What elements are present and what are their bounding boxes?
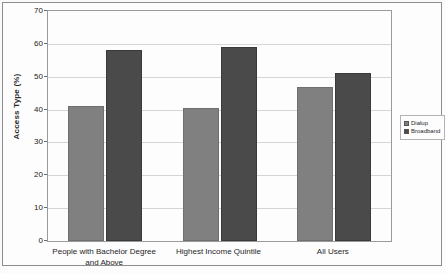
legend-label-broadband: Broadband bbox=[411, 128, 440, 135]
y-axis-tick-mark bbox=[44, 174, 47, 175]
category-label: People with Bachelor Degreeand Above bbox=[42, 246, 166, 268]
bar-dialup-3 bbox=[297, 87, 333, 241]
y-axis-tick-label: 20 bbox=[21, 170, 43, 179]
bottom-caption-sliver bbox=[4, 268, 440, 274]
bar-broadband-1 bbox=[106, 50, 142, 241]
y-axis-tick-mark bbox=[44, 141, 47, 142]
y-axis-tick-label: 40 bbox=[21, 105, 43, 114]
bar-broadband-3 bbox=[335, 73, 371, 241]
y-axis-tick-label: 10 bbox=[21, 203, 43, 212]
category-label: Highest Income Quintile bbox=[156, 246, 280, 257]
y-axis-tick-label: 60 bbox=[21, 39, 43, 48]
bar-chart: Access Type (%) 010203040506070 People w… bbox=[2, 2, 442, 260]
y-axis-tick-mark bbox=[44, 207, 47, 208]
y-axis-tick-label: 50 bbox=[21, 72, 43, 81]
category-label-line: Highest Income Quintile bbox=[156, 246, 280, 257]
bar-dialup-1 bbox=[68, 106, 104, 241]
bar-broadband-2 bbox=[221, 47, 257, 241]
screenshot-root: Access Type (%) 010203040506070 People w… bbox=[0, 0, 446, 274]
category-label-line: People with Bachelor Degree bbox=[42, 246, 166, 257]
plot-area bbox=[47, 10, 392, 242]
legend-item-broadband: Broadband bbox=[404, 128, 442, 135]
y-axis-tick-mark bbox=[44, 240, 47, 241]
bar-dialup-2 bbox=[183, 108, 219, 241]
y-axis-title: Access Type (%) bbox=[12, 37, 21, 177]
legend-label-dialup: Dialup bbox=[411, 120, 428, 127]
category-label-line: All Users bbox=[271, 246, 395, 257]
chart-legend: Dialup Broadband bbox=[400, 115, 445, 140]
y-axis-tick-mark bbox=[44, 43, 47, 44]
gridline bbox=[48, 44, 391, 45]
y-axis-tick-mark bbox=[44, 10, 47, 11]
legend-swatch-broadband bbox=[404, 129, 409, 134]
legend-item-dialup: Dialup bbox=[404, 120, 442, 127]
y-axis-tick-mark bbox=[44, 76, 47, 77]
category-label: All Users bbox=[271, 246, 395, 257]
y-axis-tick-label: 30 bbox=[21, 137, 43, 146]
y-axis-tick-mark bbox=[44, 109, 47, 110]
y-axis-tick-label: 0 bbox=[21, 236, 43, 245]
category-label-line: and Above bbox=[42, 257, 166, 268]
y-axis-tick-label: 70 bbox=[21, 6, 43, 15]
legend-swatch-dialup bbox=[404, 121, 409, 126]
